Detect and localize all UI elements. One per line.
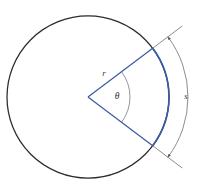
sector-radius-upper xyxy=(88,48,153,97)
geometry-diagram-canvas: r θ s xyxy=(0,0,209,191)
central-angle-arc xyxy=(122,72,130,123)
dimension-extension-line-lower xyxy=(151,145,182,168)
circle-sector-diagram: r θ s xyxy=(0,0,209,191)
dimension-extension-line-upper xyxy=(151,26,182,49)
central-angle-label: θ xyxy=(115,91,120,101)
arc-length-label: s xyxy=(184,91,188,101)
sector-radius-lower xyxy=(88,97,153,146)
radius-label: r xyxy=(102,68,106,78)
sector-arc-highlight xyxy=(153,48,169,146)
